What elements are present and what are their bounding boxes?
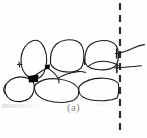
marker-upper-mid <box>45 65 50 70</box>
figure-container: (a) <box>0 0 147 138</box>
lower-notch-stroke <box>59 78 60 83</box>
marker-left-junction <box>28 75 39 83</box>
dental-arch-drawing <box>0 0 147 138</box>
upper-notch-stroke <box>84 58 85 65</box>
figure-caption: (a) <box>0 101 147 113</box>
